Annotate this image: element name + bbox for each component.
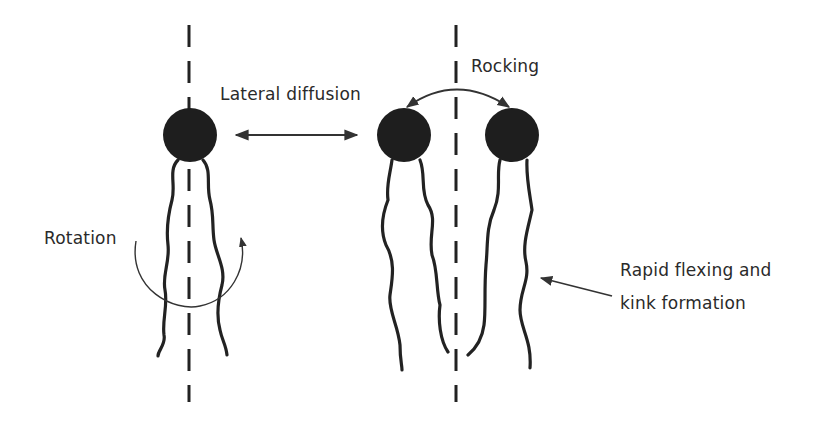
rocking-label: Rocking [471,56,539,76]
rocking-lipid-right-head [485,108,539,162]
rotating-lipid-head [163,108,217,162]
rotating-lipid-tails [158,160,227,356]
lipid-motion-diagram [0,0,834,430]
flexing-label-line1: Rapid flexing and [620,260,772,280]
rocking-lipid-right-tails [468,160,532,368]
rocking-lipid-left-head [377,108,431,162]
flexing-label-line2: kink formation [620,293,746,313]
lateral-diffusion-label: Lateral diffusion [220,84,361,104]
rotation-label: Rotation [44,228,117,248]
rocking-arrow [407,90,509,108]
flexing-arrow [541,278,612,296]
rocking-lipid-left-tails [382,160,448,370]
